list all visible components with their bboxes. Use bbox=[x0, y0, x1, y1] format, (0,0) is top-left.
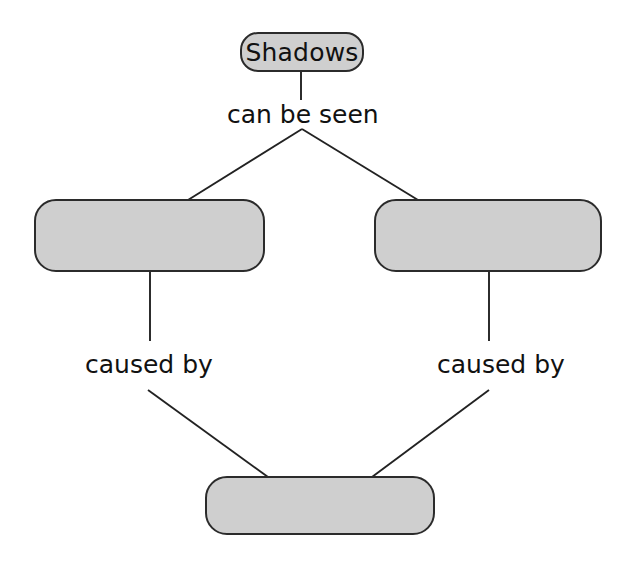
edge-caused-by-left-to-cause bbox=[148, 390, 268, 477]
edge-caused-by-right-to-cause bbox=[372, 390, 489, 477]
node-root[interactable]: Shadows bbox=[240, 32, 364, 72]
node-effect-right[interactable] bbox=[374, 199, 602, 272]
link-label-caused-by-right-text: caused by bbox=[437, 350, 565, 379]
node-effect-left[interactable] bbox=[34, 199, 265, 272]
node-cause[interactable] bbox=[205, 476, 435, 535]
link-label-can-be-seen: can be seen bbox=[227, 102, 379, 127]
link-label-caused-by-right: caused by bbox=[437, 352, 565, 377]
node-root-label: Shadows bbox=[245, 40, 358, 65]
concept-map-canvas: Shadows can be seen caused by caused by bbox=[0, 0, 635, 568]
edge-fork-apex-right bbox=[302, 129, 418, 200]
link-label-can-be-seen-text: can be seen bbox=[227, 100, 379, 129]
link-label-caused-by-left: caused by bbox=[85, 352, 213, 377]
link-label-caused-by-left-text: caused by bbox=[85, 350, 213, 379]
edge-fork-apex-left bbox=[188, 129, 302, 200]
